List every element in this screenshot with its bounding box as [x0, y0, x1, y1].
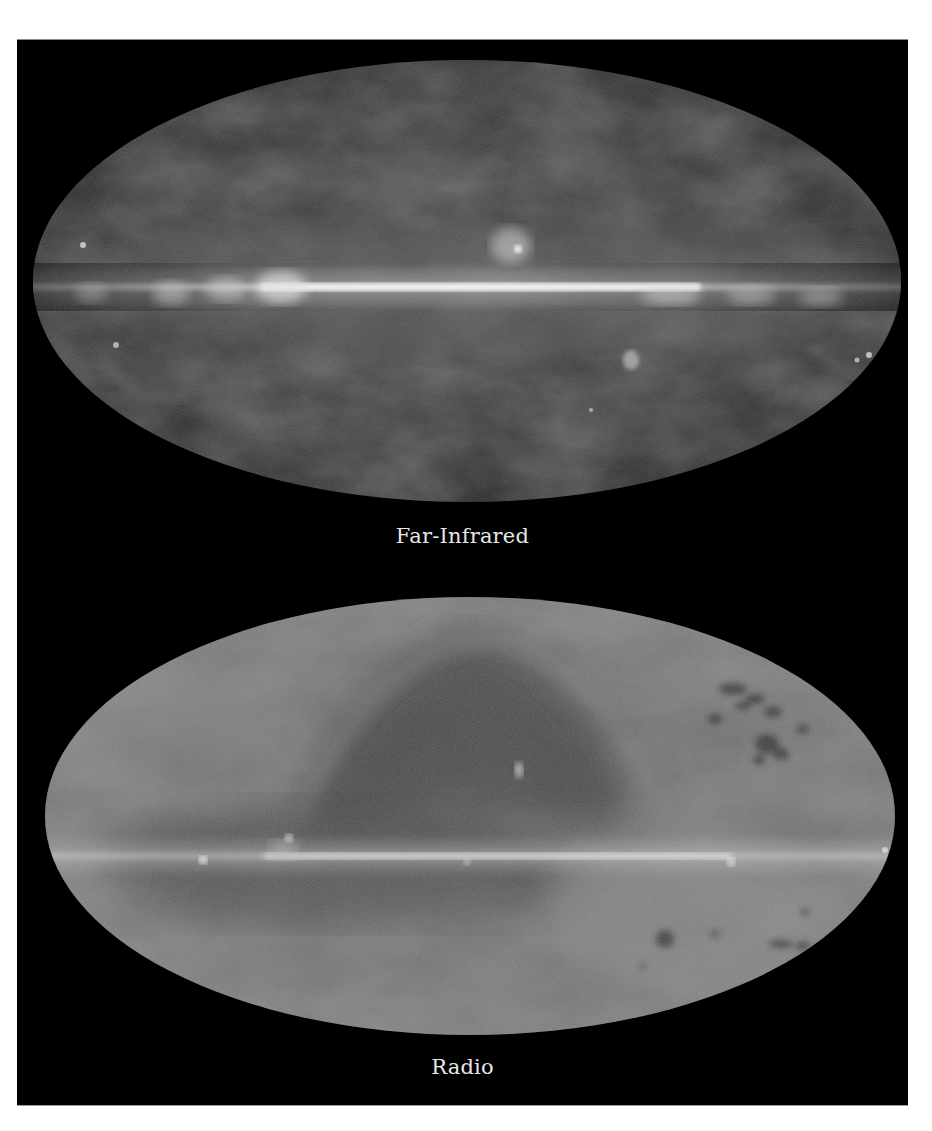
figure-panel: Far-Infrared	[17, 39, 908, 1105]
radio-caption: Radio	[17, 1055, 908, 1079]
far-infrared-sky-map	[31, 55, 903, 505]
radio-sky-map	[43, 594, 897, 1038]
far-infrared-caption: Far-Infrared	[17, 524, 908, 548]
